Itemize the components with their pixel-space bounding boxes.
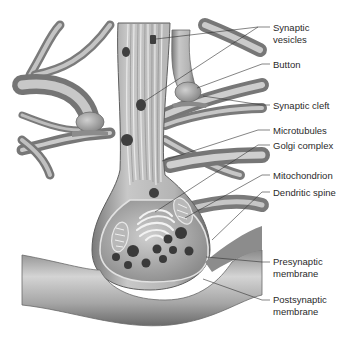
label-mitochondrion: Mitochondrion <box>273 170 333 182</box>
label-golgi-complex: Golgi complex <box>273 140 333 152</box>
label-line: Mitochondrion <box>273 170 333 182</box>
label-line: vesicles <box>273 34 309 46</box>
label-line: Microtubules <box>273 125 327 137</box>
label-line: Synaptic <box>273 22 309 34</box>
label-synaptic-vesicles: Synaptic vesicles <box>273 22 309 45</box>
left-button <box>72 112 108 137</box>
label-line: Postsynaptic <box>273 294 327 306</box>
label-microtubules: Microtubules <box>273 125 327 137</box>
label-line: Presynaptic <box>273 256 323 268</box>
label-line: membrane <box>273 268 323 280</box>
label-line: Dendritic spine <box>273 187 336 199</box>
synapse-diagram <box>0 0 356 338</box>
label-line: Button <box>273 59 300 71</box>
label-line: membrane <box>273 306 327 318</box>
label-presynaptic-membrane: Presynaptic membrane <box>273 256 323 279</box>
label-dendritic-spine: Dendritic spine <box>273 187 336 199</box>
label-postsynaptic-membrane: Postsynaptic membrane <box>273 294 327 317</box>
label-line: Golgi complex <box>273 140 333 152</box>
label-synaptic-cleft: Synaptic cleft <box>273 100 330 112</box>
label-line: Synaptic cleft <box>273 100 330 112</box>
label-button: Button <box>273 59 300 71</box>
